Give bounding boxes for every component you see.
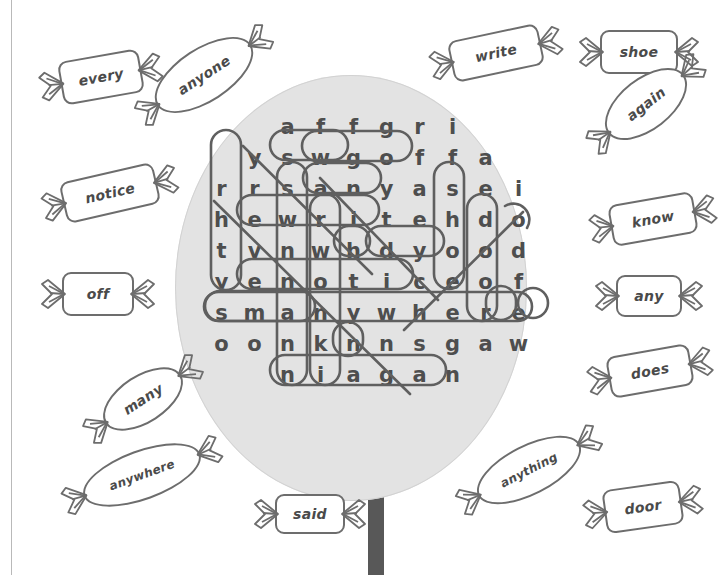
- puzzle-letter[interactable]: e: [403, 205, 436, 236]
- puzzle-letter[interactable]: o: [238, 329, 271, 360]
- candy-body: every: [57, 48, 145, 106]
- puzzle-letter[interactable]: e: [436, 298, 469, 329]
- puzzle-letter[interactable]: g: [370, 360, 403, 391]
- candy-anything[interactable]: anything: [467, 422, 591, 518]
- candy-said[interactable]: said: [275, 494, 345, 534]
- puzzle-letter[interactable]: e: [238, 205, 271, 236]
- puzzle-letter[interactable]: r: [238, 174, 271, 205]
- puzzle-letter[interactable]: s: [403, 329, 436, 360]
- puzzle-letter[interactable]: g: [337, 143, 370, 174]
- puzzle-letter[interactable]: o: [436, 236, 469, 267]
- puzzle-letter[interactable]: f: [436, 143, 469, 174]
- puzzle-letter[interactable]: g: [436, 329, 469, 360]
- puzzle-letter[interactable]: t: [205, 236, 238, 267]
- puzzle-letter[interactable]: e: [469, 174, 502, 205]
- puzzle-letter[interactable]: n: [304, 298, 337, 329]
- candy-any[interactable]: any: [616, 275, 682, 317]
- puzzle-letter[interactable]: t: [337, 267, 370, 298]
- puzzle-letter[interactable]: e: [502, 298, 535, 329]
- puzzle-letter[interactable]: a: [337, 360, 370, 391]
- puzzle-letter[interactable]: n: [271, 267, 304, 298]
- puzzle-letter[interactable]: o: [205, 329, 238, 360]
- puzzle-letter[interactable]: i: [436, 112, 469, 143]
- puzzle-letter[interactable]: i: [337, 205, 370, 236]
- puzzle-letter[interactable]: h: [337, 236, 370, 267]
- puzzle-letter-grid[interactable]: affgriyswgoffarrsanyaseihewritehdotvnwhd…: [205, 112, 535, 397]
- puzzle-letter[interactable]: e: [238, 267, 271, 298]
- puzzle-letter[interactable]: w: [304, 236, 337, 267]
- puzzle-letter[interactable]: f: [502, 267, 535, 298]
- candy-notice[interactable]: notice: [59, 162, 162, 225]
- puzzle-letter[interactable]: n: [337, 329, 370, 360]
- puzzle-letter[interactable]: o: [370, 143, 403, 174]
- puzzle-letter[interactable]: w: [370, 298, 403, 329]
- candy-wrapper-twist-right-icon: [191, 430, 227, 471]
- puzzle-letter[interactable]: t: [370, 205, 403, 236]
- puzzle-letter[interactable]: v: [238, 236, 271, 267]
- candy-word-label: many: [120, 380, 166, 418]
- candy-write[interactable]: write: [447, 23, 546, 83]
- candy-know[interactable]: know: [607, 191, 699, 247]
- puzzle-letter[interactable]: i: [502, 174, 535, 205]
- puzzle-letter[interactable]: w: [304, 143, 337, 174]
- puzzle-letter[interactable]: k: [304, 329, 337, 360]
- puzzle-letter[interactable]: n: [271, 236, 304, 267]
- worksheet-page: affgriyswgoffarrsanyaseihewritehdotvnwhd…: [0, 0, 727, 575]
- puzzle-letter[interactable]: i: [370, 267, 403, 298]
- puzzle-letter[interactable]: h: [436, 205, 469, 236]
- puzzle-letter[interactable]: n: [436, 360, 469, 391]
- puzzle-letter[interactable]: a: [271, 298, 304, 329]
- puzzle-letter[interactable]: f: [403, 143, 436, 174]
- candy-body: anything: [467, 422, 591, 518]
- puzzle-letter[interactable]: a: [403, 174, 436, 205]
- puzzle-letter[interactable]: h: [205, 205, 238, 236]
- candy-does[interactable]: does: [605, 343, 695, 399]
- puzzle-letter[interactable]: c: [403, 267, 436, 298]
- puzzle-letter[interactable]: d: [370, 236, 403, 267]
- puzzle-letter[interactable]: s: [436, 174, 469, 205]
- puzzle-letter[interactable]: f: [337, 112, 370, 143]
- puzzle-letter[interactable]: a: [304, 174, 337, 205]
- puzzle-letter[interactable]: r: [304, 205, 337, 236]
- candy-body: door: [601, 480, 684, 534]
- puzzle-letter[interactable]: h: [403, 298, 436, 329]
- candy-every[interactable]: every: [57, 48, 145, 106]
- puzzle-letter[interactable]: y: [205, 267, 238, 298]
- puzzle-letter[interactable]: a: [403, 360, 436, 391]
- puzzle-letter[interactable]: r: [205, 174, 238, 205]
- candy-off[interactable]: off: [62, 272, 134, 316]
- puzzle-letter[interactable]: e: [436, 267, 469, 298]
- puzzle-letter[interactable]: n: [271, 360, 304, 391]
- puzzle-letter[interactable]: m: [238, 298, 271, 329]
- puzzle-letter[interactable]: s: [271, 143, 304, 174]
- puzzle-letter[interactable]: a: [469, 329, 502, 360]
- puzzle-letter[interactable]: o: [469, 267, 502, 298]
- puzzle-letter[interactable]: f: [304, 112, 337, 143]
- puzzle-letter[interactable]: d: [502, 236, 535, 267]
- puzzle-letter[interactable]: r: [469, 298, 502, 329]
- puzzle-letter[interactable]: o: [502, 205, 535, 236]
- puzzle-letter[interactable]: i: [304, 360, 337, 391]
- puzzle-letter[interactable]: y: [337, 298, 370, 329]
- puzzle-letter[interactable]: d: [469, 205, 502, 236]
- puzzle-letter[interactable]: y: [238, 143, 271, 174]
- puzzle-letter[interactable]: a: [469, 143, 502, 174]
- puzzle-letter[interactable]: w: [271, 205, 304, 236]
- candy-many[interactable]: many: [92, 354, 194, 443]
- puzzle-letter[interactable]: o: [304, 267, 337, 298]
- puzzle-letter[interactable]: r: [403, 112, 436, 143]
- puzzle-letter[interactable]: o: [469, 236, 502, 267]
- puzzle-letter[interactable]: y: [370, 174, 403, 205]
- puzzle-letter[interactable]: n: [271, 329, 304, 360]
- puzzle-letter[interactable]: s: [205, 298, 238, 329]
- puzzle-letter[interactable]: y: [403, 236, 436, 267]
- puzzle-letter[interactable]: n: [370, 329, 403, 360]
- puzzle-letter[interactable]: a: [271, 112, 304, 143]
- puzzle-letter[interactable]: s: [271, 174, 304, 205]
- puzzle-letter[interactable]: w: [502, 329, 535, 360]
- candy-word-label: any: [634, 288, 663, 304]
- puzzle-letter[interactable]: g: [370, 112, 403, 143]
- puzzle-letter[interactable]: n: [337, 174, 370, 205]
- candy-wrapper-twist-left-icon: [129, 89, 169, 132]
- candy-door[interactable]: door: [601, 480, 684, 534]
